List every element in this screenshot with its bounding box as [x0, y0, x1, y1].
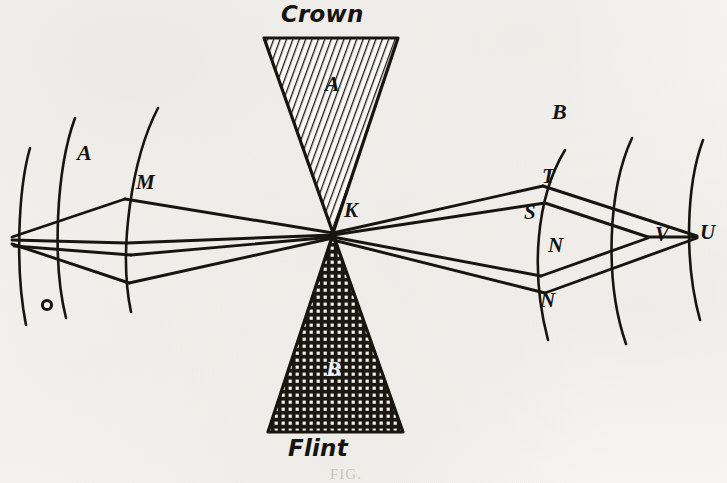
point-label-V: V	[655, 224, 669, 245]
flint-caption: Flint	[288, 437, 348, 460]
crown-caption: Crown	[281, 3, 364, 26]
region-label-B: B	[552, 101, 567, 123]
point-label-N-upper: N	[548, 235, 563, 256]
arc-right-middle-V	[612, 138, 632, 344]
flint-prism	[268, 234, 403, 432]
point-label-U: U	[700, 222, 715, 243]
left-ray-bundle	[12, 199, 333, 283]
ray-right-lower-KN	[333, 237, 541, 276]
ray-left-upper-out	[125, 199, 333, 233]
crown-prism-fill	[264, 38, 398, 233]
ray-left-upper-in	[12, 199, 125, 237]
region-label-A: A	[77, 142, 92, 164]
point-label-K: K	[344, 200, 358, 221]
flint-prism-fill	[268, 234, 403, 432]
point-label-S: S	[524, 202, 536, 223]
point-label-N-lower: N	[540, 290, 555, 311]
crown-prism-letter: A	[325, 73, 340, 95]
point-label-T: T	[542, 166, 555, 187]
optical-diagram	[0, 0, 727, 483]
ray-left-axis-upper	[12, 240, 127, 243]
ray-right-lower-KN2	[333, 240, 545, 293]
right-ray-bundle	[333, 186, 697, 293]
ray-right-upper-SV	[545, 203, 648, 237]
figure-page: Crown Flint A B A B K M T S N N V U FIG.	[0, 0, 727, 483]
figure-caption: FIG.	[330, 466, 362, 483]
crown-prism	[264, 38, 398, 233]
source-point-mark	[42, 300, 51, 309]
flint-prism-letter: B	[326, 358, 341, 380]
point-label-M: M	[136, 172, 155, 193]
arc-left-outer	[19, 148, 30, 325]
